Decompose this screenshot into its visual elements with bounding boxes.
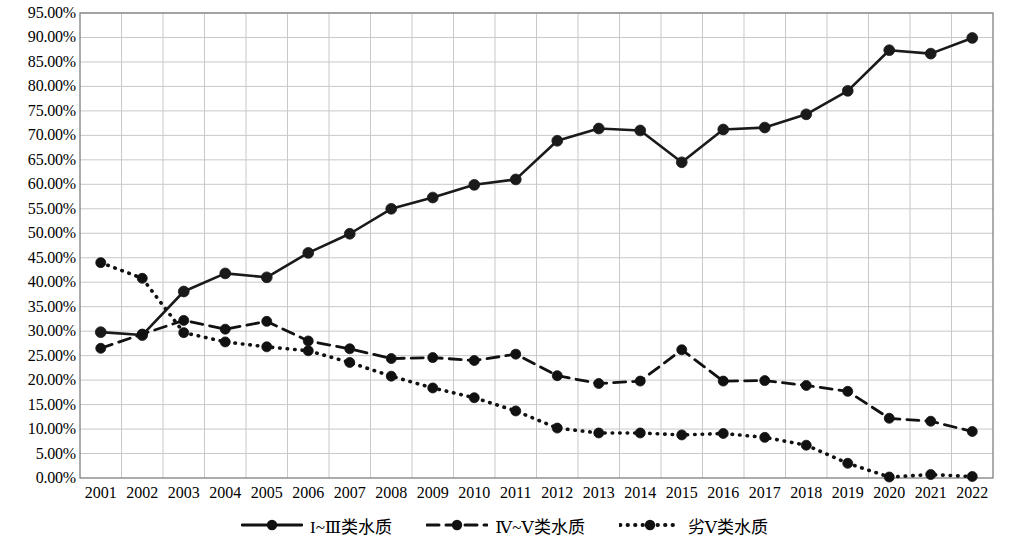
data-point bbox=[511, 349, 521, 359]
data-point bbox=[511, 406, 521, 416]
data-point bbox=[759, 122, 770, 133]
data-point bbox=[925, 48, 936, 59]
y-axis-tick-label: 55.00% bbox=[28, 201, 76, 217]
data-point bbox=[718, 124, 729, 135]
legend-label: 劣Ⅴ类水质 bbox=[688, 513, 768, 538]
data-point bbox=[635, 376, 645, 386]
data-point bbox=[137, 273, 147, 283]
legend-label: I~Ⅲ类水质 bbox=[310, 513, 392, 538]
chart-plot-area bbox=[0, 0, 1009, 545]
y-axis-tick-label: 35.00% bbox=[28, 299, 76, 315]
data-point bbox=[345, 344, 355, 354]
y-axis-tick-label: 50.00% bbox=[28, 225, 76, 241]
data-point bbox=[760, 432, 770, 442]
data-point bbox=[386, 354, 396, 364]
data-point bbox=[677, 430, 687, 440]
data-point bbox=[801, 440, 811, 450]
data-point bbox=[552, 135, 563, 146]
data-point bbox=[262, 342, 272, 352]
data-point bbox=[469, 393, 479, 403]
data-point bbox=[220, 337, 230, 347]
y-axis-tick-label: 20.00% bbox=[28, 372, 76, 388]
data-point bbox=[510, 174, 521, 185]
data-point bbox=[594, 379, 604, 389]
y-axis-tick-label: 30.00% bbox=[28, 323, 76, 339]
data-point bbox=[262, 316, 272, 326]
y-axis-tick-label: 0.00% bbox=[36, 470, 76, 486]
chart-legend: I~Ⅲ类水质Ⅳ~Ⅴ类水质劣Ⅴ类水质 bbox=[0, 508, 1009, 542]
y-axis-tick-label: 5.00% bbox=[36, 446, 76, 462]
legend-item-3[interactable]: 劣Ⅴ类水质 bbox=[619, 513, 768, 538]
data-point bbox=[427, 192, 438, 203]
data-point bbox=[635, 125, 646, 136]
y-axis-tick-label: 65.00% bbox=[28, 152, 76, 168]
data-point bbox=[178, 286, 189, 297]
data-point bbox=[96, 258, 106, 268]
data-point bbox=[303, 247, 314, 258]
y-axis-tick-label: 10.00% bbox=[28, 421, 76, 437]
data-point bbox=[967, 427, 977, 437]
y-axis-tick-label: 70.00% bbox=[28, 127, 76, 143]
data-point bbox=[718, 376, 728, 386]
data-point bbox=[179, 328, 189, 338]
legend-swatch-solid bbox=[241, 518, 303, 532]
data-point bbox=[95, 327, 106, 338]
y-axis-tick-label: 95.00% bbox=[28, 5, 76, 21]
data-point bbox=[926, 416, 936, 426]
data-point bbox=[428, 383, 438, 393]
y-axis-tick-label: 25.00% bbox=[28, 348, 76, 364]
data-point bbox=[884, 472, 894, 482]
data-point bbox=[884, 45, 895, 56]
y-axis-tick-label: 80.00% bbox=[28, 78, 76, 94]
line-chart: 95.00%90.00%85.00%80.00%75.00%70.00%65.0… bbox=[0, 0, 1009, 545]
y-axis-tick-label: 90.00% bbox=[28, 29, 76, 45]
y-axis-tick-label: 85.00% bbox=[28, 54, 76, 70]
legend-label: Ⅳ~Ⅴ类水质 bbox=[495, 513, 584, 538]
data-point bbox=[594, 428, 604, 438]
data-point bbox=[220, 268, 231, 279]
data-point bbox=[386, 371, 396, 381]
data-point bbox=[718, 428, 728, 438]
data-point bbox=[884, 413, 894, 423]
data-point bbox=[635, 428, 645, 438]
data-point bbox=[137, 329, 147, 339]
data-point bbox=[469, 179, 480, 190]
data-point bbox=[843, 386, 853, 396]
data-point bbox=[345, 357, 355, 367]
data-point bbox=[842, 85, 853, 96]
legend-swatch-dashed bbox=[426, 518, 488, 532]
data-point bbox=[843, 458, 853, 468]
legend-item-1[interactable]: I~Ⅲ类水质 bbox=[241, 513, 392, 538]
data-point bbox=[179, 315, 189, 325]
data-point bbox=[676, 157, 687, 168]
data-point bbox=[801, 109, 812, 120]
data-point bbox=[967, 472, 977, 482]
data-point bbox=[926, 470, 936, 480]
data-point bbox=[801, 380, 811, 390]
x-axis-tick-label: 2022 bbox=[948, 485, 996, 501]
data-point bbox=[593, 123, 604, 134]
data-point bbox=[552, 423, 562, 433]
y-axis-tick-label: 60.00% bbox=[28, 176, 76, 192]
data-point bbox=[469, 356, 479, 366]
data-point bbox=[220, 324, 230, 334]
data-point bbox=[552, 371, 562, 381]
y-axis-tick-label: 15.00% bbox=[28, 397, 76, 413]
y-axis-tick-label: 40.00% bbox=[28, 274, 76, 290]
data-point bbox=[760, 376, 770, 386]
data-point bbox=[303, 336, 313, 346]
data-point bbox=[303, 346, 313, 356]
y-axis-tick-label: 45.00% bbox=[28, 250, 76, 266]
data-point bbox=[386, 203, 397, 214]
data-point bbox=[96, 343, 106, 353]
data-point bbox=[967, 33, 978, 44]
data-point bbox=[677, 345, 687, 355]
y-axis-tick-label: 75.00% bbox=[28, 103, 76, 119]
data-point bbox=[261, 272, 272, 283]
data-point bbox=[344, 228, 355, 239]
legend-item-2[interactable]: Ⅳ~Ⅴ类水质 bbox=[426, 513, 584, 538]
data-point bbox=[428, 353, 438, 363]
legend-swatch-dotted bbox=[619, 518, 681, 532]
